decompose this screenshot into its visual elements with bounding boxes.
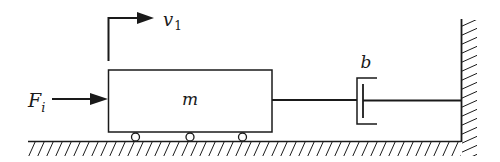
wall-hatching: [462, 20, 477, 156]
force-label-subscript: i: [41, 100, 45, 115]
mass-damper-diagram: m b Fi v1: [0, 0, 500, 162]
damper-label: b: [361, 52, 372, 72]
wall: [462, 19, 478, 156]
damper-assembly: b: [272, 52, 461, 124]
ground: [28, 142, 461, 157]
wheel-icon: [186, 133, 194, 141]
wheel-icon: [239, 133, 247, 141]
velocity-arrow-shaft: [109, 18, 141, 61]
velocity-arrow-head-icon: [137, 12, 154, 24]
wheels: [132, 133, 247, 141]
ground-hatching: [28, 142, 461, 156]
force-label: Fi: [27, 89, 45, 115]
mass-block: m: [109, 70, 273, 132]
velocity-label: v1: [163, 9, 182, 33]
mass-label: m: [182, 89, 198, 109]
wheel-icon: [132, 133, 140, 141]
input-force: Fi: [27, 89, 108, 115]
force-arrow-head-icon: [90, 93, 108, 105]
force-label-main: F: [27, 89, 42, 111]
velocity-label-main: v: [163, 9, 173, 30]
velocity-arrow: v1: [109, 9, 182, 61]
velocity-label-subscript: 1: [174, 19, 182, 33]
